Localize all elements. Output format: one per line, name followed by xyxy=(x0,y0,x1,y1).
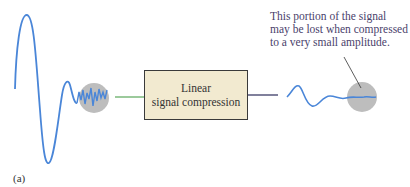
annotation-pointer-line xyxy=(344,57,361,88)
box-label-line1: Linear xyxy=(181,81,211,95)
annotation-line: to a very small amplitude. xyxy=(270,36,410,49)
figure-label: (a) xyxy=(13,172,25,184)
annotation-line: may be lost when compressed xyxy=(270,23,410,36)
loss-annotation: This portion of the signal may be lost w… xyxy=(270,10,410,49)
linear-compression-box: Linear signal compression xyxy=(144,70,248,120)
input-waveform xyxy=(15,15,77,163)
box-label-line2: signal compression xyxy=(152,95,240,109)
annotation-line: This portion of the signal xyxy=(270,10,410,23)
